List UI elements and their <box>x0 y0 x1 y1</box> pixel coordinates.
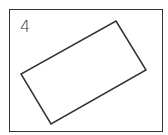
rotated-rectangle <box>21 21 146 124</box>
rotated-rectangle-diagram <box>0 0 168 135</box>
